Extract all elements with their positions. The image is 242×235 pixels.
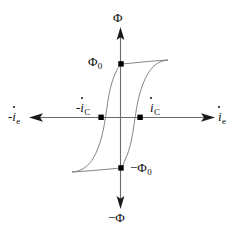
marker-label-critical-current-negative-subscript: C xyxy=(84,107,90,117)
hysteresis-plot-canvas xyxy=(0,0,242,235)
marker-label-critical-current-negative: -iC xyxy=(76,101,90,114)
axis-label-current-negative: -ie xyxy=(8,110,20,123)
marker-critical-current-negative xyxy=(98,115,103,120)
marker-label-phi-zero-negative: −Φ0 xyxy=(130,161,151,174)
axis-label-current-negative-subscript: e xyxy=(16,116,20,126)
marker-label-phi-zero-positive-base: Φ xyxy=(88,54,98,69)
axis-label-flux-positive-text: Φ xyxy=(113,10,123,25)
marker-label-phi-zero-positive-subscript: 0 xyxy=(98,61,103,71)
overdot-icon xyxy=(81,97,83,99)
axis-label-flux-negative: −Φ xyxy=(108,211,125,224)
marker-phi-zero-negative xyxy=(118,165,123,170)
marker-label-phi-zero-negative-base: Φ xyxy=(137,160,147,175)
marker-phi-zero-positive xyxy=(118,61,123,66)
marker-label-phi-zero-negative-subscript: 0 xyxy=(147,167,152,177)
marker-label-critical-current-positive: iC xyxy=(150,101,160,114)
marker-label-phi-zero-positive: Φ0 xyxy=(88,55,102,68)
axis-label-flux-positive: Φ xyxy=(113,11,123,24)
overdot-icon xyxy=(13,106,15,108)
axis-label-current-positive-subscript: e xyxy=(222,116,226,126)
marker-critical-current-positive xyxy=(137,115,142,120)
marker-label-critical-current-positive-subscript: C xyxy=(154,107,160,117)
axis-label-flux-negative-text: −Φ xyxy=(108,210,125,225)
hysteresis-figure: Φ −Φ Φ0 −Φ0 ie -ie iC -iC xyxy=(0,0,242,235)
axis-label-current-positive: ie xyxy=(218,110,226,123)
